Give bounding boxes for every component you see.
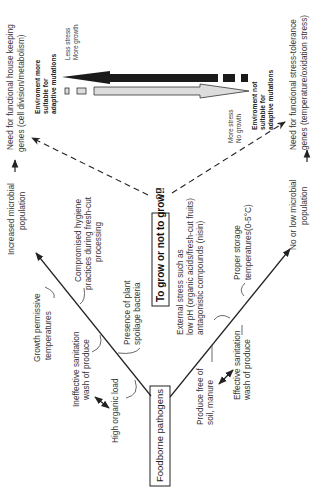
diagram-canvas: Foodborne pathogens To grow or not to gr…	[0, 0, 316, 488]
factor-free-soil-line-2: soil, manure	[205, 379, 215, 425]
factor-organic-load-bracket	[126, 380, 136, 398]
factor-external-stress-line-2: low pH (organic acids/fresh-cut fruits)	[185, 198, 195, 335]
top-need-line-2: genes (cell division/metabolism)	[16, 34, 26, 152]
root-box-label: Foodborne pathogens	[154, 389, 165, 482]
black-arrow-dash-1	[223, 74, 235, 82]
factor-free-soil-line-1: Produce free of	[195, 368, 205, 425]
bottom-need-line-2: genes (temperature/oxidation stress)	[299, 15, 309, 150]
bottom-need-line-1: Need for functional stress-tolerance	[288, 19, 298, 150]
factor-effective-wash-line-1: Effective sanitation	[232, 330, 242, 400]
factor-growth-temp-bracket	[45, 287, 54, 298]
factor-hygiene-line-2: practices during fresh-cut	[83, 196, 93, 290]
env-more-line-2: suitable for	[42, 78, 49, 114]
factor-ineffective-wash-line-2: wash of produce	[81, 339, 91, 401]
factor-effective-wash-line-2: wash of produce	[242, 339, 252, 401]
black-arrow-dash-2	[241, 74, 248, 82]
lower-outcome-line-1: No or low microbial	[288, 179, 298, 250]
factor-storage-line-2: temperatures(0-5°C)	[243, 204, 253, 280]
upper-outcome-line-1: Increased microbial	[6, 183, 16, 255]
gray-arrow-dash-2	[77, 88, 86, 94]
factor-storage-line-1: Proper storage	[232, 225, 242, 280]
less-stress-line-1: Less stress	[64, 28, 71, 60]
lower-outcome-line-2: population	[299, 186, 309, 225]
factor-spoilage-line-2: spoilage bacteria	[132, 282, 142, 345]
factor-ineffective-wash-line-1: Ineffective sanitation	[71, 331, 81, 407]
center-box-label: To grow or not to grow!!	[155, 187, 166, 302]
env-not-line-2: suitable for	[259, 94, 266, 130]
factor-external-stress-bracket	[214, 315, 230, 320]
upper-outcome-line-2: population	[17, 191, 27, 230]
env-not-line-3: adaptive mutations	[267, 70, 275, 130]
less-stress-line-2: More growth	[72, 24, 80, 60]
question-marks: ??	[154, 188, 166, 200]
factor-hygiene-line-1: Compromised hygiene	[73, 199, 83, 282]
factor-spoilage-line-1: Presence of plant	[122, 280, 132, 345]
factor-external-stress-line-1: External stress such as	[175, 249, 185, 335]
more-stress-line-1: More stress	[227, 110, 234, 143]
factor-external-stress-line-3: antagonistic compounds (nisin)	[195, 220, 205, 335]
env-not-line-1: Enviroment not	[251, 81, 258, 130]
env-more-line-3: adaptive mutations	[50, 54, 58, 114]
factor-storage-bracket	[241, 283, 245, 296]
more-stress-line-2: No growth	[235, 113, 243, 143]
factor-ineffective-wash-bracket	[92, 335, 101, 352]
double-arrow-lower	[219, 370, 233, 384]
black-arrow	[62, 71, 218, 84]
diagram-svg: Foodborne pathogens To grow or not to gr…	[0, 0, 316, 488]
gray-arrow	[94, 84, 249, 98]
factor-hygiene-line-3: processing	[93, 221, 103, 262]
top-need-line-1: Need for functional house keeping	[5, 24, 15, 150]
double-arrow-upper	[95, 397, 109, 408]
factor-organic-load: High organic load	[110, 378, 120, 443]
factor-growth-temp-line-1: Growth permissive	[32, 293, 42, 362]
env-more-line-1: Enviroment more	[34, 59, 41, 114]
factor-spoilage-bracket	[118, 348, 140, 353]
gray-arrow-dash-1	[65, 88, 69, 94]
dashed-arrow-up	[32, 138, 148, 195]
factor-growth-temp-line-2: temperatures	[43, 311, 53, 360]
